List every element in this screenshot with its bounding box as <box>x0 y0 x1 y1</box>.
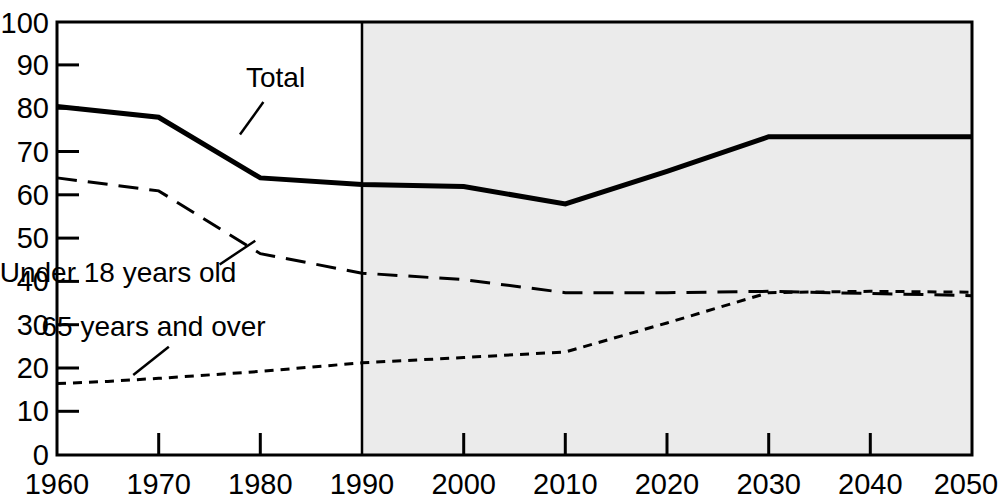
y-label-80: 80 <box>17 92 49 124</box>
y-axis-ticks <box>57 65 79 411</box>
y-label-100: 100 <box>1 7 49 39</box>
y-label-60: 60 <box>17 179 49 211</box>
y-axis-tick-labels: 0 10 20 30 40 50 60 70 80 90 100 <box>1 7 49 471</box>
x-label-2000: 2000 <box>431 468 496 500</box>
annotation-65-over: 65 years and over <box>42 311 266 342</box>
annotation-under-18: Under 18 years old <box>0 257 236 288</box>
x-label-1980: 1980 <box>228 468 293 500</box>
x-label-2020: 2020 <box>635 468 700 500</box>
total-leader-line <box>240 102 263 134</box>
projection-shading-band <box>362 22 972 455</box>
y-label-20: 20 <box>17 352 49 384</box>
x-label-1960: 1960 <box>25 468 90 500</box>
chart-container: 0 10 20 30 40 50 60 70 80 90 100 1960 19… <box>0 0 1004 504</box>
dependency-ratio-line-chart: 0 10 20 30 40 50 60 70 80 90 100 1960 19… <box>0 0 1004 504</box>
y-label-0: 0 <box>33 439 49 471</box>
x-label-1970: 1970 <box>126 468 191 500</box>
x-label-2050: 2050 <box>934 468 999 500</box>
annotation-total: Total <box>246 62 305 93</box>
x-axis-tick-labels: 1960 1970 1980 1990 2000 2010 2020 2030 … <box>25 468 999 500</box>
y-label-90: 90 <box>17 49 49 81</box>
x-label-1990: 1990 <box>330 468 395 500</box>
y-label-10: 10 <box>17 395 49 427</box>
x-label-2030: 2030 <box>736 468 801 500</box>
x-label-2010: 2010 <box>533 468 598 500</box>
over65-leader-line <box>133 347 169 375</box>
x-label-2040: 2040 <box>838 468 903 500</box>
y-label-50: 50 <box>17 222 49 254</box>
y-label-70: 70 <box>17 136 49 168</box>
